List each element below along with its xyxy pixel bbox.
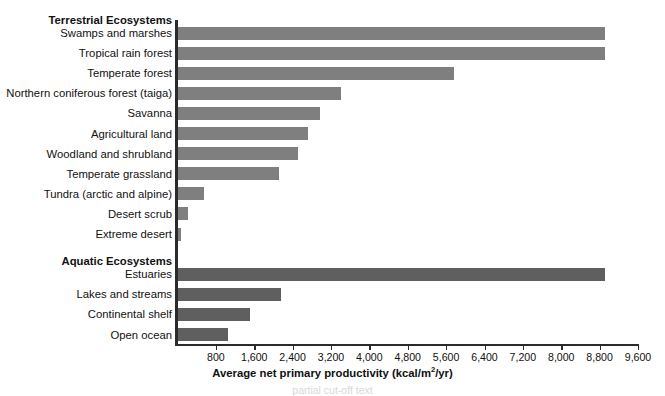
x-axis-tick-label: 9,600 — [625, 351, 652, 363]
chart-row: Tropical rain forest — [0, 43, 665, 63]
bar-category-label: Temperate grassland — [0, 164, 172, 184]
x-axis-tick — [638, 344, 639, 350]
chart-row: Lakes and streams — [0, 284, 665, 304]
bar-category-label: Open ocean — [0, 325, 172, 345]
x-axis-tick — [254, 344, 255, 350]
bar-category-label: Savanna — [0, 103, 172, 123]
bar — [178, 87, 341, 100]
chart-row: Continental shelf — [0, 304, 665, 324]
chart-row: Agricultural land — [0, 124, 665, 144]
bar — [178, 268, 605, 281]
x-axis-tick-label: 1,600 — [241, 351, 268, 363]
bar-category-label: Temperate forest — [0, 63, 172, 83]
bar — [178, 207, 188, 220]
chart-row: Northern coniferous forest (taiga) — [0, 83, 665, 103]
chart-row: Extreme desert — [0, 224, 665, 244]
bar-category-label: Swamps and marshes — [0, 23, 172, 43]
bar-category-label: Tropical rain forest — [0, 43, 172, 63]
chart-row: Desert scrub — [0, 204, 665, 224]
chart-row: Temperate forest — [0, 63, 665, 83]
bar-category-label: Agricultural land — [0, 124, 172, 144]
x-axis-tick — [331, 344, 332, 350]
x-axis-tick — [216, 344, 217, 350]
bar — [178, 288, 281, 301]
x-axis-tick-label: 8,800 — [586, 351, 613, 363]
bar-category-label: Tundra (arctic and alpine) — [0, 184, 172, 204]
x-axis-tick — [369, 344, 370, 350]
chart-row: Open ocean — [0, 325, 665, 345]
bar-category-label: Woodland and shrubland — [0, 144, 172, 164]
bar-category-label: Extreme desert — [0, 224, 172, 244]
x-axis-tick-label: 3,200 — [318, 351, 345, 363]
x-axis-title: Average net primary productivity (kcal/m… — [0, 365, 665, 379]
bar — [178, 228, 181, 241]
chart-row: Swamps and marshes — [0, 23, 665, 43]
x-axis-tick-label: 4,000 — [356, 351, 383, 363]
x-axis-tick-label: 8,000 — [548, 351, 575, 363]
bar — [178, 308, 250, 321]
chart-row: Savanna — [0, 103, 665, 123]
figure-caption: partial cut-off text — [0, 384, 665, 396]
x-axis-tick-label: 800 — [207, 351, 225, 363]
bar — [178, 67, 454, 80]
x-axis-tick-label: 6,400 — [471, 351, 498, 363]
x-axis-tick — [408, 344, 409, 350]
x-axis-tick-label: 2,400 — [279, 351, 306, 363]
bar — [178, 107, 320, 120]
x-axis-tick — [600, 344, 601, 350]
x-axis-tick — [523, 344, 524, 350]
bar-category-label: Estuaries — [0, 264, 172, 284]
chart-row: Temperate grassland — [0, 164, 665, 184]
bar — [178, 147, 298, 160]
bar-category-label: Desert scrub — [0, 204, 172, 224]
x-axis-tick — [561, 344, 562, 350]
y-axis-line — [175, 20, 178, 345]
x-axis-title-main: Average net primary productivity (kcal/m — [212, 367, 431, 379]
chart-row: Woodland and shrubland — [0, 144, 665, 164]
x-axis-tick-label: 4,800 — [394, 351, 421, 363]
bar — [178, 167, 279, 180]
bar-category-label: Northern coniferous forest (taiga) — [0, 83, 172, 103]
chart-row: Tundra (arctic and alpine) — [0, 184, 665, 204]
x-axis-tick-label: 5,600 — [433, 351, 460, 363]
chart-row: Estuaries — [0, 264, 665, 284]
x-axis-tick-label: 7,200 — [510, 351, 537, 363]
bar-category-label: Continental shelf — [0, 304, 172, 324]
x-axis-tick — [293, 344, 294, 350]
bar — [178, 47, 605, 60]
x-axis-tick — [446, 344, 447, 350]
bar — [178, 328, 228, 341]
bar — [178, 27, 605, 40]
bar — [178, 187, 204, 200]
x-axis-title-tail: /yr) — [435, 367, 453, 379]
bar-category-label: Lakes and streams — [0, 284, 172, 304]
bar — [178, 127, 308, 140]
x-axis-tick — [485, 344, 486, 350]
